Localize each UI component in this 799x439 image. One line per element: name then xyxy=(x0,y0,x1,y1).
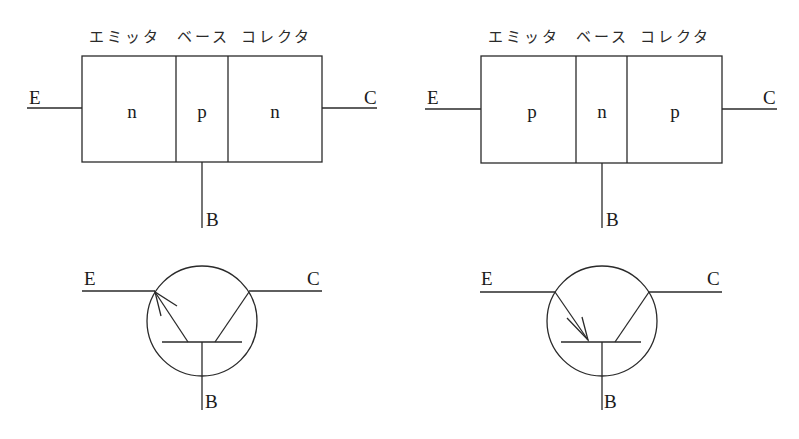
collector-header: コレクタ xyxy=(241,28,312,46)
collector-terminal-label: C xyxy=(307,268,320,289)
base-header: ベース xyxy=(177,28,230,46)
base-header: ベース xyxy=(576,28,629,46)
collector-region-label: n xyxy=(270,101,280,122)
emitter-header: エミッタ xyxy=(488,28,560,46)
collector-terminal-label: C xyxy=(763,87,776,108)
base-terminal-label: B xyxy=(604,391,617,412)
emitter-terminal-label: E xyxy=(427,87,439,108)
emitter-terminal-label: E xyxy=(84,268,96,289)
base-terminal-label: B xyxy=(606,209,619,230)
emitter-region-label: n xyxy=(127,101,137,122)
pnp-structure: エミッタ ベース コレクタ p n p E C B xyxy=(425,28,777,230)
npn-symbol: E C B xyxy=(82,266,322,412)
emitter-terminal-label: E xyxy=(29,87,41,108)
transistor-diagram: エミッタ ベース コレクタ n p n E C B エミッタ ベース コレクタ … xyxy=(0,0,799,439)
base-terminal-label: B xyxy=(205,391,218,412)
base-region-label: n xyxy=(597,101,607,122)
emitter-arrow-icon xyxy=(567,317,588,340)
base-region-label: p xyxy=(197,101,207,122)
collector-terminal-label: C xyxy=(707,268,720,289)
base-terminal-label: B xyxy=(206,209,219,230)
collector-terminal-label: C xyxy=(364,87,377,108)
emitter-diagonal xyxy=(555,292,588,340)
emitter-arrow-icon xyxy=(155,292,177,316)
emitter-terminal-label: E xyxy=(481,268,493,289)
emitter-header: エミッタ xyxy=(89,28,161,46)
npn-structure: エミッタ ベース コレクタ n p n E C B xyxy=(27,28,377,230)
emitter-region-label: p xyxy=(527,101,537,122)
pnp-symbol: E C B xyxy=(480,266,722,412)
collector-diagonal xyxy=(215,292,249,342)
collector-region-label: p xyxy=(670,101,680,122)
collector-header: コレクタ xyxy=(640,28,711,46)
emitter-diagonal xyxy=(155,292,188,342)
collector-diagonal xyxy=(615,292,649,342)
